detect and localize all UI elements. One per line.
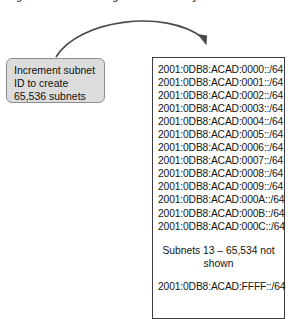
ipv6-address: 2001:0DB8:ACAD:0005::/64 <box>153 128 284 141</box>
ipv6-address: 2001:0DB8:ACAD:000C::/64 <box>153 220 284 233</box>
omitted-subnets-line: Subnets 13 – 65,534 not <box>159 244 278 257</box>
arrow-head-icon <box>198 34 208 46</box>
omitted-subnets-note: Subnets 13 – 65,534 not shown <box>153 244 284 270</box>
callout-line: Increment subnet <box>14 64 104 77</box>
callout-line: ID to create <box>14 77 104 90</box>
ipv6-address-last: 2001:0DB8:ACAD:FFFF::/64 <box>153 280 284 293</box>
ipv6-address: 2001:0DB8:ACAD:0007::/64 <box>153 154 284 167</box>
ipv6-address: 2001:0DB8:ACAD:000A::/64 <box>153 193 284 206</box>
increment-subnet-callout: Increment subnet ID to create 65,536 sub… <box>6 58 105 103</box>
figure-caption: Figure 8-6Subnetting the Subnet ID by Ni… <box>8 0 293 2</box>
ipv6-address: 2001:0DB8:ACAD:0001::/64 <box>153 76 284 89</box>
ipv6-address: 2001:0DB8:ACAD:0009::/64 <box>153 180 284 193</box>
ipv6-address: 2001:0DB8:ACAD:000B::/64 <box>153 207 284 220</box>
ipv6-subnet-list-panel: 2001:0DB8:ACAD:0000::/64 2001:0DB8:ACAD:… <box>152 57 285 319</box>
ipv6-address: 2001:0DB8:ACAD:0008::/64 <box>153 167 284 180</box>
omitted-subnets-line: shown <box>159 257 278 270</box>
figure-title: Subnetting the Subnet ID by Nibble <box>68 0 230 2</box>
ipv6-address: 2001:0DB8:ACAD:0004::/64 <box>153 115 284 128</box>
ipv6-address: 2001:0DB8:ACAD:0003::/64 <box>153 102 284 115</box>
callout-line: 65,536 subnets <box>14 90 104 103</box>
arrow-curve <box>56 21 203 57</box>
ipv6-address: 2001:0DB8:ACAD:0006::/64 <box>153 141 284 154</box>
ipv6-address: 2001:0DB8:ACAD:0000::/64 <box>153 63 284 76</box>
ipv6-address: 2001:0DB8:ACAD:0002::/64 <box>153 89 284 102</box>
figure-number: Figure 8-6 <box>8 0 54 2</box>
